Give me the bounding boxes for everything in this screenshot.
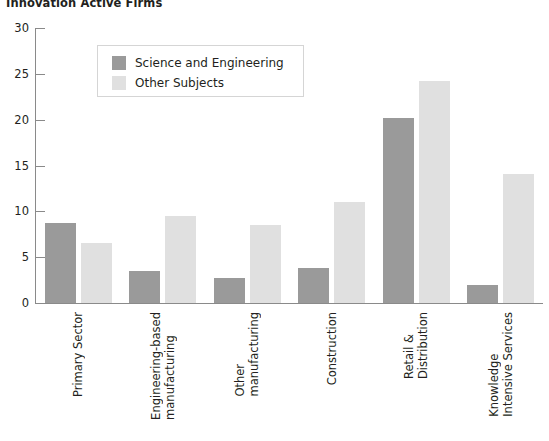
bar [81, 243, 112, 303]
x-axis-category: Othermanufacturing [205, 308, 290, 440]
bar [250, 225, 281, 303]
x-axis-category-line: Engineering-based [149, 312, 162, 420]
bar [383, 118, 414, 303]
bar [467, 285, 498, 303]
x-axis-category-line: Construction [325, 312, 338, 385]
x-axis-category: Engineering-basedmanufacturing [121, 308, 206, 440]
y-axis-tick-label: 0 [22, 296, 29, 310]
bar-chart: Innovation Active Firms 051015202530 Sci… [0, 0, 549, 441]
bar [298, 268, 329, 303]
y-axis-tick-label: 20 [14, 113, 29, 127]
y-axis-tick-label: 15 [14, 159, 29, 173]
bar [503, 174, 534, 303]
x-axis-category-line: Knowledge [487, 312, 500, 417]
legend-item-science-and-engineering: Science and Engineering [112, 53, 303, 73]
x-axis-category: Construction [290, 308, 375, 440]
legend-item-other-subjects: Other Subjects [112, 73, 303, 93]
y-axis-tick: 0 [36, 303, 45, 304]
x-axis-category-line: Retail & [403, 312, 416, 379]
legend-label: Other Subjects [135, 76, 224, 90]
x-axis-category: KnowledgeIntensive Services [459, 308, 544, 440]
legend-label: Science and Engineering [135, 56, 284, 70]
y-axis-tick-label: 25 [14, 67, 29, 81]
bar [419, 81, 450, 303]
x-axis-category: Primary Sector [36, 308, 121, 440]
x-axis-category-line: Intensive Services [501, 312, 514, 417]
x-axis-category-line: manufacturing [163, 312, 176, 420]
x-axis-line [35, 303, 543, 304]
chart-title: Innovation Active Firms [6, 0, 162, 10]
bar-group [459, 28, 544, 303]
x-axis-category-labels: Primary SectorEngineering-basedmanufactu… [36, 308, 543, 440]
bar [214, 278, 245, 303]
bar [334, 202, 365, 303]
y-axis-tick-label: 5 [22, 250, 29, 264]
bar [45, 223, 76, 303]
x-axis-category: Retail &Distribution [374, 308, 459, 440]
legend-swatch-icon [112, 76, 126, 90]
bar-group [374, 28, 459, 303]
legend-swatch-icon [112, 56, 126, 70]
x-axis-category-line: manufacturing [248, 312, 261, 397]
x-axis-category-line: Other [234, 312, 247, 397]
y-axis-tick-label: 30 [14, 21, 29, 35]
x-axis-category-line: Primary Sector [72, 312, 85, 397]
bar [165, 216, 196, 303]
bar [129, 271, 160, 303]
chart-legend: Science and Engineering Other Subjects [97, 45, 304, 97]
y-axis-tick-label: 10 [14, 204, 29, 218]
x-axis-category-line: Distribution [417, 312, 430, 379]
